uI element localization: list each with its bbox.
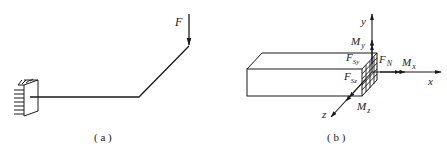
axial-force-fn-label: FN	[378, 53, 393, 68]
caption-a: ( a )	[94, 131, 112, 144]
shear-fsz-label: FSz	[343, 70, 357, 85]
moment-mz-label: Mz	[356, 100, 371, 115]
caption-b: ( b )	[327, 131, 346, 144]
x-axis-label: x	[427, 75, 433, 87]
y-axis-label: y	[360, 15, 366, 27]
moment-mx-label: Mx	[401, 56, 416, 71]
figure-a: F ( a )	[14, 14, 189, 144]
moment-my-label: My	[350, 35, 365, 50]
diagram-canvas: F ( a ) y My x	[0, 0, 447, 153]
bent-beam	[30, 46, 189, 97]
figure-b: y My x Mx FN FSy FSz z Mz ( b )	[247, 14, 441, 144]
z-axis-label: z	[321, 108, 327, 120]
force-f-label: F	[174, 15, 183, 29]
